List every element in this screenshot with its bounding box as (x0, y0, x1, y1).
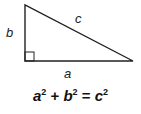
formula-exp-b: 2 (73, 87, 78, 97)
side-label-a: a (64, 67, 71, 80)
formula-equals: = (82, 87, 91, 104)
formula-term-b: b (63, 87, 72, 104)
pythagorean-formula: a2 + b2 = c2 (0, 87, 141, 104)
formula-term-c: c (95, 87, 103, 104)
formula-exp-a: 2 (41, 87, 46, 97)
right-angle-marker (25, 52, 34, 61)
formula-exp-c: 2 (103, 87, 108, 97)
formula-plus: + (50, 87, 59, 104)
side-label-c: c (75, 12, 82, 25)
side-label-b: b (6, 26, 13, 39)
